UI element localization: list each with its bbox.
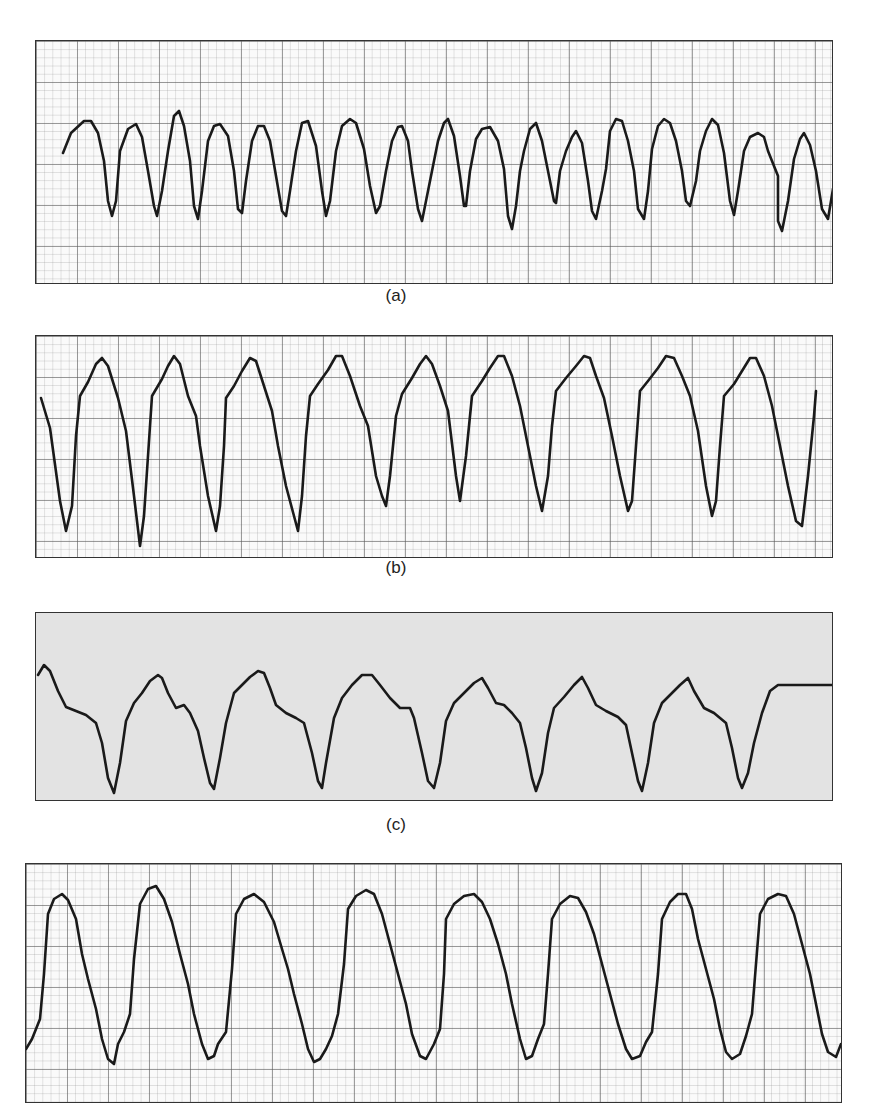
ecg-trace	[26, 864, 842, 1103]
waveform-line	[26, 886, 841, 1064]
ecg-strip-d	[25, 863, 842, 1103]
ecg-strip-c	[35, 612, 833, 801]
ecg-trace	[36, 41, 833, 284]
ecg-strip-a	[35, 40, 833, 284]
ecg-strip-b	[35, 335, 833, 558]
ecg-trace	[36, 336, 833, 558]
waveform-line	[41, 356, 816, 546]
panel-label-c: (c)	[366, 815, 426, 835]
panel-label-a: (a)	[366, 286, 426, 306]
waveform-line	[63, 111, 833, 231]
waveform-line	[38, 665, 833, 793]
ecg-trace	[36, 613, 833, 801]
panel-label-b: (b)	[366, 558, 426, 578]
